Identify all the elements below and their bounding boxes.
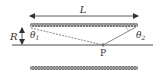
radius-label: R — [9, 31, 18, 42]
theta2-label: θ2 — [136, 30, 145, 41]
point-p-label: P — [100, 48, 106, 58]
theta2-line — [103, 27, 136, 45]
radius-dimension: R — [9, 28, 22, 44]
top-coil — [30, 23, 138, 27]
length-dimension: L — [30, 4, 138, 16]
solenoid-diagram: L R θ1 θ2 P — [0, 0, 164, 76]
theta1-line — [31, 28, 103, 45]
bottom-coil — [30, 66, 138, 70]
theta1-label: θ1 — [30, 30, 39, 41]
length-label: L — [79, 4, 87, 15]
